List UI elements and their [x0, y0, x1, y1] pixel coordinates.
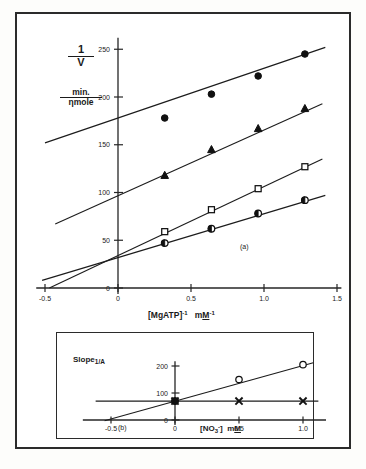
x-tick-label: 0 — [173, 425, 177, 432]
panel-b-x-axis-title: [NO3-] mM — [200, 424, 241, 434]
no3-bracket-close: ] — [220, 424, 223, 433]
panel-b-x-units: mM — [227, 424, 241, 433]
x-tick-label: -0.5 — [105, 425, 117, 432]
slope-text: Slope — [73, 355, 95, 364]
intersection-marker — [172, 398, 179, 405]
no3-bracket-open: [NO — [200, 424, 215, 433]
fit-line — [105, 363, 314, 421]
series-open-circle — [105, 361, 314, 420]
intersection-dot — [172, 398, 179, 405]
y-tick-label: 100 — [156, 390, 168, 397]
series-cross — [96, 398, 319, 405]
y-tick-label: 200 — [156, 363, 168, 370]
panel-b-chart: -0.500.51.00100200 — [0, 0, 366, 469]
figure-root: -0.500.51.01.5050100150200250 1 V min. η… — [0, 0, 366, 469]
panel-b-axes: -0.500.51.00100200 — [83, 361, 326, 432]
slope-subscript: 1/A — [95, 358, 105, 365]
y-tick-label: 0 — [164, 417, 168, 424]
data-point-open-circle — [236, 376, 242, 382]
panel-b-tag: (b) — [118, 424, 127, 431]
panel-b-y-axis-title: Slope1/A — [73, 355, 105, 365]
data-point-open-circle — [300, 361, 306, 367]
x-tick-label: 1.0 — [298, 425, 308, 432]
